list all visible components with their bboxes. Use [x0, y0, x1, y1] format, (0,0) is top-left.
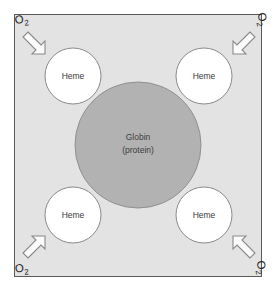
heme-label-bottom-right: Heme: [193, 210, 216, 220]
globin-label-line1: Globin: [126, 132, 151, 142]
heme-label-top-right: Heme: [193, 71, 216, 81]
heme-label-top-left: Heme: [62, 71, 85, 81]
heme-label-bottom-left: Heme: [62, 210, 85, 220]
globin-label-line2: (protein): [122, 145, 154, 155]
hemoglobin-diagram: Heme Heme Heme Heme Globin (protein) O2 …: [0, 0, 278, 291]
